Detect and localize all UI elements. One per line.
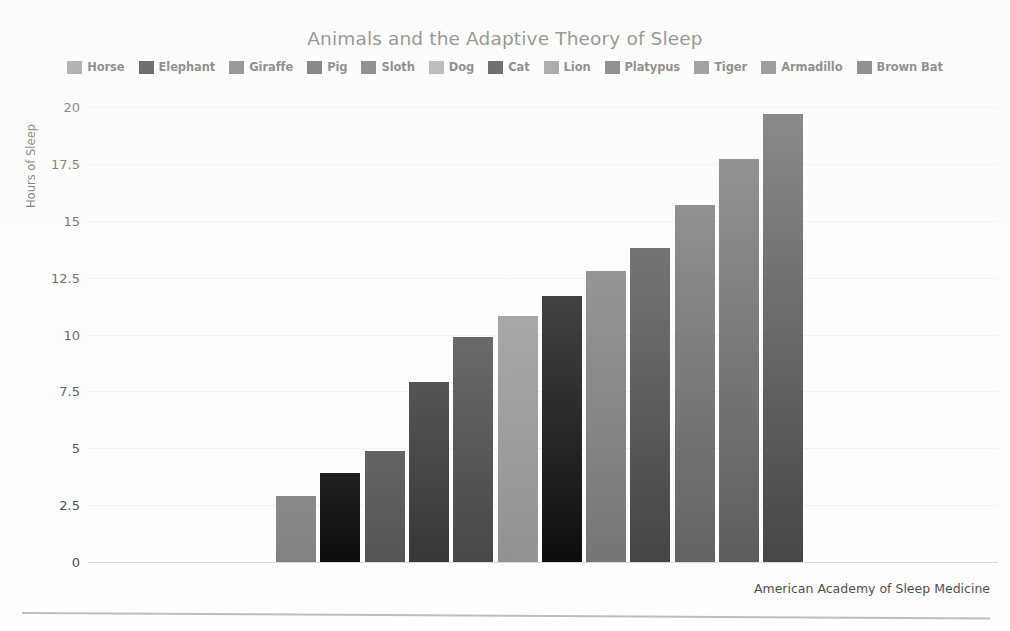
bar-horse[interactable] — [276, 496, 316, 562]
source-attribution: American Academy of Sleep Medicine — [754, 581, 990, 596]
bar-brown-bat[interactable] — [763, 114, 803, 562]
bar-series — [0, 0, 1010, 631]
bar-tiger[interactable] — [675, 205, 715, 562]
bar-pig[interactable] — [409, 382, 449, 562]
bar-armadillo[interactable] — [719, 159, 759, 562]
bar-sloth[interactable] — [453, 337, 493, 562]
chart-page: Animals and the Adaptive Theory of Sleep… — [0, 0, 1010, 631]
bar-lion[interactable] — [586, 271, 626, 562]
bar-giraffe[interactable] — [365, 451, 405, 562]
bar-dog[interactable] — [498, 316, 538, 562]
plot-area: Hours of Sleep 02.557.51012.51517.520 — [0, 0, 1010, 631]
bar-cat[interactable] — [542, 296, 582, 562]
bar-platypus[interactable] — [630, 248, 670, 562]
bar-elephant[interactable] — [320, 473, 360, 562]
